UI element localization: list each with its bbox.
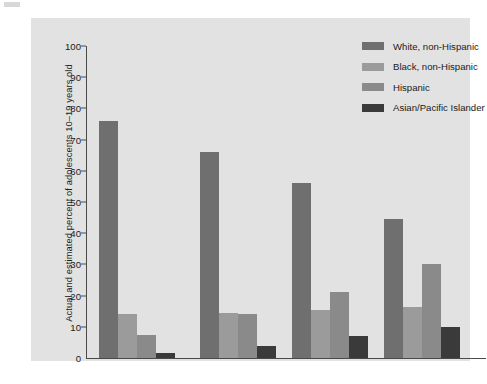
y-axis-tick-mark bbox=[81, 264, 86, 265]
y-axis-tick-mark bbox=[81, 202, 86, 203]
bar bbox=[257, 346, 276, 358]
y-axis-tick-label: 50 bbox=[55, 197, 81, 208]
y-axis-tick-label: 70 bbox=[55, 134, 81, 145]
bar bbox=[156, 353, 175, 358]
legend-label: Black, non-Hispanic bbox=[393, 61, 478, 72]
y-axis-tick-label: 90 bbox=[55, 72, 81, 83]
bar-group bbox=[292, 46, 368, 358]
y-axis-tick-label: 80 bbox=[55, 103, 81, 114]
y-axis-tick-mark bbox=[81, 77, 86, 78]
y-axis-tick-mark bbox=[81, 46, 86, 47]
y-axis-tick-label: 30 bbox=[55, 259, 81, 270]
bar bbox=[403, 307, 422, 358]
chart-figure: Actual and estimated percent of adolesce… bbox=[0, 0, 487, 384]
bar bbox=[200, 152, 219, 358]
y-axis-tick-label: 60 bbox=[55, 165, 81, 176]
legend-swatch bbox=[362, 83, 384, 91]
y-axis-tick-mark bbox=[81, 326, 86, 327]
y-axis-tick-mark bbox=[81, 139, 86, 140]
y-axis-tick-mark bbox=[81, 295, 86, 296]
y-axis-tick-mark bbox=[81, 108, 86, 109]
y-axis-tick-label: 10 bbox=[55, 321, 81, 332]
bar bbox=[238, 314, 257, 358]
bar bbox=[422, 264, 441, 358]
plot-panel: Actual and estimated percent of adolesce… bbox=[31, 18, 470, 361]
y-axis-tick-mark bbox=[81, 170, 86, 171]
bar bbox=[99, 121, 118, 358]
bar bbox=[219, 313, 238, 358]
bar bbox=[330, 292, 349, 358]
chart-legend: White, non-HispanicBlack, non-HispanicHi… bbox=[362, 42, 485, 124]
legend-label: White, non-Hispanic bbox=[393, 41, 479, 52]
x-axis-line bbox=[86, 358, 486, 359]
legend-item: Black, non-Hispanic bbox=[362, 63, 485, 71]
legend-label: Asian/Pacific Islander bbox=[393, 102, 485, 113]
legend-item: Asian/Pacific Islander bbox=[362, 104, 485, 112]
legend-item: White, non-Hispanic bbox=[362, 42, 485, 50]
bar bbox=[137, 335, 156, 358]
bar bbox=[441, 327, 460, 358]
bar bbox=[384, 219, 403, 358]
bar-group bbox=[200, 46, 276, 358]
legend-item: Hispanic bbox=[362, 83, 485, 91]
bar bbox=[292, 183, 311, 358]
corner-artifact bbox=[4, 2, 20, 7]
y-axis-tick-label: 40 bbox=[55, 228, 81, 239]
bar bbox=[118, 314, 137, 358]
y-axis-tick-label: 0 bbox=[55, 353, 81, 364]
legend-swatch bbox=[362, 104, 384, 112]
y-axis-tick-mark bbox=[81, 233, 86, 234]
legend-swatch bbox=[362, 63, 384, 71]
y-axis-tick-label: 20 bbox=[55, 290, 81, 301]
bar-group bbox=[99, 46, 175, 358]
bar bbox=[311, 310, 330, 358]
legend-label: Hispanic bbox=[393, 82, 430, 93]
legend-swatch bbox=[362, 42, 384, 50]
y-axis-tick-label: 100 bbox=[55, 41, 81, 52]
bar bbox=[349, 336, 368, 358]
